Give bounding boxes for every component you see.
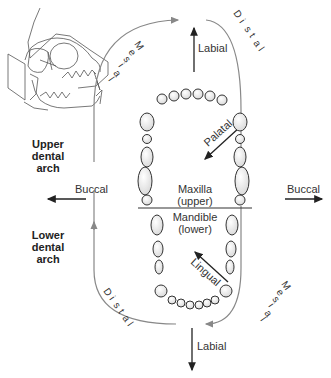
lower-arch-title-1: Lower: [32, 229, 65, 241]
distal-upper-right: D i s t a l: [231, 8, 266, 53]
cat-skull-icon: [8, 8, 108, 110]
dental-directions-diagram: Labial Labial Buccal Buccal Upper dental…: [0, 0, 331, 378]
maxilla-label: Maxilla: [178, 183, 213, 195]
buccal-left-label: Buccal: [75, 183, 108, 195]
lower-arch-title-3: arch: [36, 253, 60, 265]
palatal-label: Palatal: [201, 117, 234, 148]
labial-top-label: Labial: [198, 42, 227, 54]
upper-arch-title-3: arch: [36, 162, 60, 174]
svg-text:D: D: [231, 8, 244, 20]
labial-bottom-label: Labial: [197, 340, 226, 352]
maxilla-sub-label: (upper): [177, 195, 212, 207]
buccal-right-label: Buccal: [287, 183, 320, 195]
mandible-sub-label: (lower): [178, 223, 212, 235]
upper-arch-title-2: dental: [32, 150, 64, 162]
svg-text:i: i: [237, 17, 247, 25]
svg-text:l: l: [106, 75, 116, 83]
lower-arch-title-2: dental: [32, 241, 64, 253]
upper-arch-title-1: Upper: [32, 138, 65, 150]
svg-text:t: t: [247, 31, 258, 40]
svg-text:l: l: [258, 315, 268, 323]
mandible-label: Mandible: [173, 211, 218, 223]
mesial-lower-right: M e s i a l: [258, 279, 293, 323]
distal-lower-left: D i s t a l: [101, 286, 135, 328]
lingual-label: Lingual: [189, 256, 223, 289]
